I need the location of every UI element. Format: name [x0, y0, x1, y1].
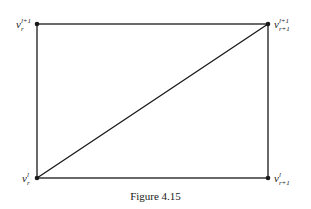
label-indices: l+1r: [21, 17, 31, 33]
label-sub: r+1: [279, 25, 290, 33]
vertex-bottom-left: [35, 176, 40, 181]
label-sup: l+1: [21, 17, 31, 25]
label-indices: lr: [27, 171, 30, 187]
label-sub: r: [21, 25, 24, 33]
diagonal-edge: [37, 24, 268, 178]
label-bottom-right: vlr+1: [274, 171, 290, 187]
vertex-top-right: [266, 22, 271, 27]
label-indices: lr+1: [279, 171, 290, 187]
label-top-right: vl+1r+1: [274, 17, 290, 33]
figure-caption: Figure 4.15: [0, 190, 311, 202]
vertex-bottom-right: [266, 176, 271, 181]
label-bottom-left: vlr: [22, 171, 30, 187]
label-sub: r+1: [279, 179, 290, 187]
diagram-canvas: [0, 0, 311, 209]
label-sup: l+1: [279, 17, 289, 25]
label-sup: l: [279, 171, 281, 179]
label-top-left: vl+1r: [16, 17, 31, 33]
label-sub: r: [27, 179, 30, 187]
label-indices: l+1r+1: [279, 17, 290, 33]
vertex-top-left: [35, 22, 40, 27]
label-sup: l: [27, 171, 29, 179]
